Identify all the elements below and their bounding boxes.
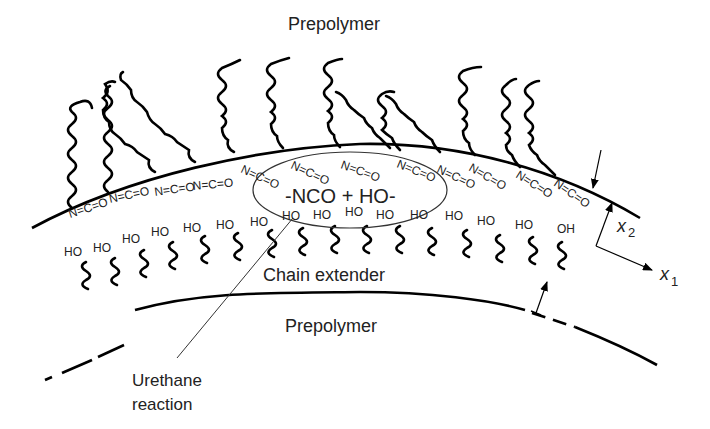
x1-axis-arrow (596, 246, 652, 270)
coordinate-axes (596, 203, 652, 270)
interface-arrow-up (536, 282, 547, 313)
hydroxyl-group-label: HO (93, 241, 111, 255)
urethane-interface-diagram: Prepolymer Chain extender Prepolymer -NC… (0, 0, 710, 429)
chain-extender-label: Chain extender (263, 265, 385, 285)
nco-group-label: N=C=O (513, 168, 555, 201)
hydroxyl-group-label: OH (557, 222, 575, 236)
hydroxyl-group-label: HO (122, 232, 140, 246)
hydroxyl-group-label: HO (216, 218, 234, 232)
hydroxyl-group-label: HO (64, 245, 82, 259)
hydroxyl-group-label: HO (250, 215, 268, 229)
hydroxyl-group-label: HO (445, 209, 463, 223)
svg-text:x: x (659, 264, 670, 284)
x2-axis-label: x 2 (616, 216, 635, 240)
hydroxyl-group-label: HO (477, 214, 495, 228)
lower-interface-dash-left-3 (98, 345, 124, 357)
svg-text:x: x (616, 216, 627, 236)
hydroxyl-group-label: HO (282, 209, 300, 223)
lower-interface-right (575, 327, 657, 365)
lower-interface-dash-left-2 (45, 377, 52, 380)
hydroxyl-group-label: HO (183, 221, 201, 235)
svg-text:2: 2 (628, 225, 635, 240)
hydroxyl-group-label: HO (376, 208, 394, 222)
interface-arrow-down (593, 150, 601, 188)
nco-group-label: N=C=O (395, 157, 438, 185)
hydroxyl-group-label: HO (515, 218, 533, 232)
hydroxyl-group-label: HO (345, 205, 363, 219)
nco-group-label: N=C=O (339, 158, 382, 185)
svg-text:1: 1 (671, 274, 678, 289)
x2-axis-arrow (596, 203, 612, 246)
nco-group-label: N=C=O (192, 175, 234, 192)
x1-axis-label: x 1 (659, 264, 678, 289)
nco-group-label: N=C=O (67, 195, 110, 221)
lower-interface-curve (135, 292, 525, 310)
nco-group-label: N=C=O (239, 162, 282, 192)
hydroxyl-group-label: HO (151, 225, 169, 239)
callout-label-line2: reaction (132, 395, 192, 414)
hydroxyl-group-label: HO (313, 208, 331, 222)
nco-group-label: N=C=O (153, 179, 195, 199)
nco-group-label: N=C=O (108, 184, 151, 206)
top-prepolymer-label: Prepolymer (288, 14, 380, 34)
callout-label-line1: Urethane (132, 371, 202, 390)
nco-group-label: N=C=O (551, 176, 592, 211)
lower-interface-dash-right (532, 313, 575, 327)
reaction-formula-label: -NCO + HO- (285, 185, 396, 207)
lower-interface-dash-left-1 (62, 360, 92, 373)
hydroxyl-group-label: HO (410, 208, 428, 222)
nco-group-label: N=C=O (289, 158, 332, 188)
bottom-prepolymer-label: Prepolymer (285, 316, 377, 336)
